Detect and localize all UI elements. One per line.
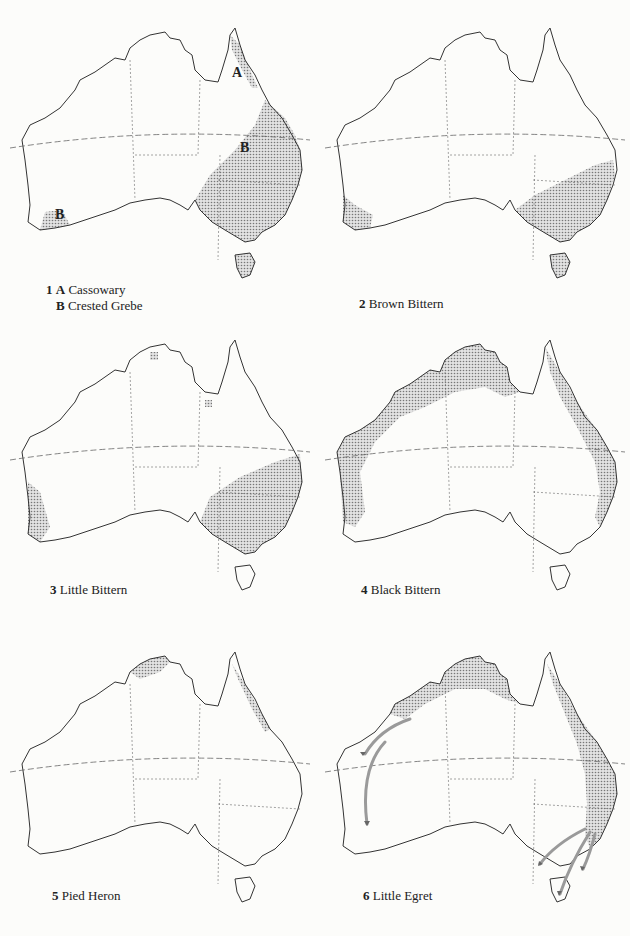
map-label-a: A: [232, 65, 242, 81]
caption-6: 6 Little Egret: [363, 888, 432, 904]
map-label-b-west: B: [55, 207, 64, 223]
map-panel-2: 2 Brown Bittern: [315, 0, 630, 312]
australia-map: [315, 0, 630, 312]
map-panel-3: 3 Little Bittern: [0, 312, 315, 624]
caption-4: 4 Black Bittern: [361, 582, 440, 598]
caption-5: 5 Pied Heron: [52, 888, 121, 904]
australia-map: [0, 624, 315, 936]
australia-map: [0, 312, 315, 624]
map-panel-1: A B B 1 A Cassowary B Crested Grebe: [0, 0, 315, 312]
caption-2: 2 Brown Bittern: [359, 296, 444, 312]
migration-arrows: [365, 719, 595, 894]
australia-map: [0, 0, 315, 312]
map-panel-4: 4 Black Bittern: [315, 312, 630, 624]
map-label-b-east: B: [240, 140, 249, 156]
caption-1: 1 A Cassowary B Crested Grebe: [46, 282, 143, 314]
map-panel-6: 6 Little Egret: [315, 624, 630, 936]
caption-3: 3 Little Bittern: [50, 582, 127, 598]
map-panel-5: 5 Pied Heron: [0, 624, 315, 936]
australia-map: [315, 312, 630, 624]
